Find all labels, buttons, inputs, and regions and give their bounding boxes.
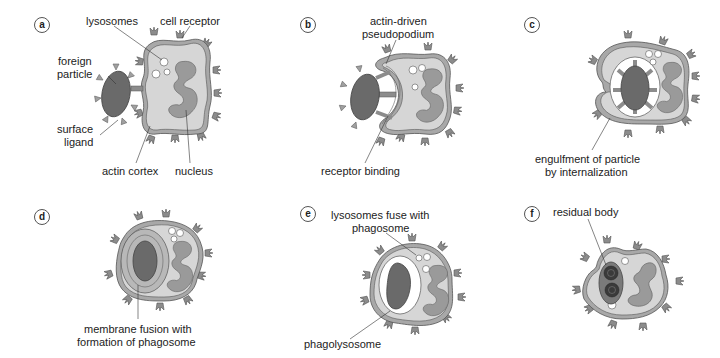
label-lysosomes-fuse-line1: lysosomes fuse with: [331, 209, 429, 221]
cell-diagram-b: [240, 0, 480, 179]
label-receptor-binding: receptor binding: [321, 165, 400, 177]
panel-f: f residual body: [480, 179, 720, 358]
label-phagolysosome: phagolysosome: [304, 338, 381, 350]
label-pseudopodium-line2: pseudopodium: [362, 28, 434, 40]
label-foreign-particle-line1: foreign: [58, 55, 92, 67]
label-foreign-particle-line2: particle: [57, 68, 92, 80]
panel-a: a lysos: [0, 0, 240, 179]
label-engulfment-line1: engulfment of particle: [535, 153, 640, 165]
panel-c: c engulfment of particle by i: [480, 0, 720, 179]
panel-d: d membrane fusion with formation of phag…: [0, 179, 240, 358]
label-surface-ligand-line2: ligand: [64, 136, 93, 148]
panel-e: e lysosomes fuse with phagosome phagolys…: [240, 179, 480, 358]
label-actin-cortex: actin cortex: [102, 165, 158, 177]
cell-diagram-e: [240, 179, 480, 358]
label-nucleus: nucleus: [175, 165, 213, 177]
label-fusion-line2: formation of phagosome: [77, 336, 196, 348]
panel-b: b actin-driven pseudopodium receptor bin…: [240, 0, 480, 179]
label-lysosomes: lysosomes: [86, 15, 138, 27]
label-cell-receptor: cell receptor: [160, 15, 220, 27]
label-fusion-line1: membrane fusion with: [84, 323, 192, 335]
label-lysosomes-fuse-line2: phagosome: [352, 222, 410, 234]
label-surface-ligand-line1: surface: [57, 123, 93, 135]
label-residual-body: residual body: [553, 206, 618, 218]
label-engulfment-line2: by internalization: [545, 166, 628, 178]
label-pseudopodium-line1: actin-driven: [370, 15, 427, 27]
